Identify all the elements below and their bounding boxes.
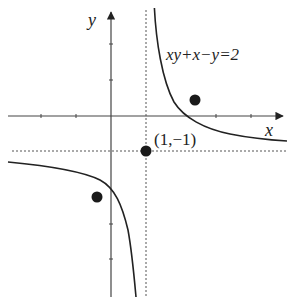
point-upper-right (190, 95, 201, 106)
y-axis-label: y (86, 10, 96, 30)
point-1-neg1 (141, 146, 152, 157)
x-axis-label: x (264, 120, 273, 140)
hyperbola-left-branch (8, 162, 136, 297)
point-lower-left (92, 192, 103, 203)
equation-label: xy+x−y=2 (165, 45, 240, 64)
point-label: (1,−1) (154, 130, 196, 149)
hyperbola-diagram: y x xy+x−y=2 (1,−1) (0, 0, 287, 297)
